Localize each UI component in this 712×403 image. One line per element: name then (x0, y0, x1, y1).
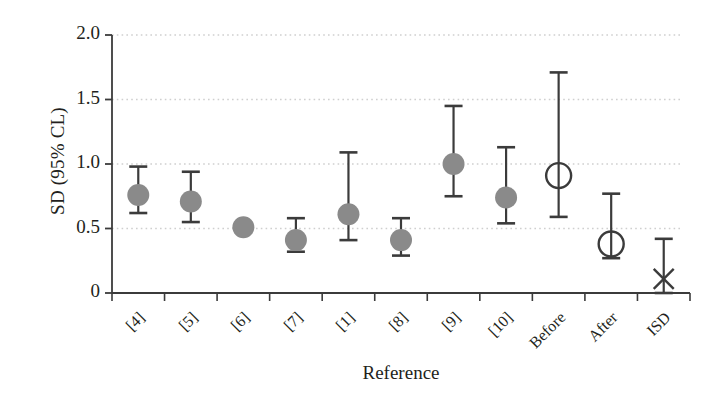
data-point-[8][interactable] (390, 229, 412, 251)
data-point-[10][interactable] (495, 187, 517, 209)
data-point-[7][interactable] (285, 229, 307, 251)
y-tick-label-2.0: 2.0 (76, 22, 100, 44)
y-tick-label-1.5: 1.5 (76, 87, 100, 109)
data-point-[6][interactable] (232, 216, 254, 238)
y-tick-label-1.0: 1.0 (76, 151, 100, 173)
data-point-[4][interactable] (127, 184, 149, 206)
data-point-[5][interactable] (180, 190, 202, 212)
x-axis-title: Reference (0, 362, 712, 384)
data-point-[1][interactable] (337, 203, 359, 225)
y-tick-label-0.5: 0.5 (76, 216, 100, 238)
data-point-[9][interactable] (443, 153, 465, 175)
y-tick-label-0: 0 (91, 280, 101, 302)
chart-container: SD (95% CL) 00.51.01.52.0 [4][5][6][7][1… (0, 0, 712, 403)
